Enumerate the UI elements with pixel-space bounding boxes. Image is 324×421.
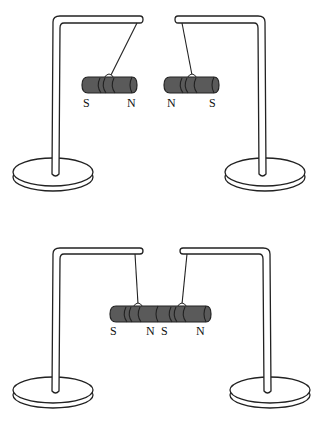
magnets-diagram: S N N S [0, 0, 324, 421]
top-scene: S N N S [13, 16, 305, 191]
pole-label: S [209, 96, 216, 110]
bottom-scene: S N S N [13, 248, 310, 408]
pole-label: N [167, 96, 176, 110]
top-left-stand [13, 16, 143, 191]
pole-label: S [161, 324, 168, 338]
pole-label: N [196, 324, 205, 338]
pole-label: S [110, 324, 117, 338]
top-left-magnet: S N [82, 74, 137, 110]
bottom-left-stand [13, 248, 143, 408]
pole-label: N [127, 96, 136, 110]
pole-label: S [83, 96, 90, 110]
pole-label: N [146, 324, 155, 338]
bottom-joined-magnets: S N S N [110, 303, 211, 338]
top-right-magnet: N S [164, 74, 219, 110]
top-right-stand [175, 16, 305, 191]
